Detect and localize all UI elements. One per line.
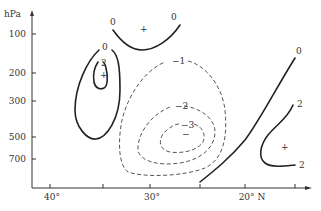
x-tick-label: 30° — [144, 192, 160, 202]
contour-left-positive: 0 2 + — [75, 42, 120, 139]
x-tick-label: 20° N — [239, 192, 266, 202]
contour-label: 2 — [299, 160, 305, 170]
contour-label: 0 — [102, 42, 108, 52]
plus-marker-icon: + — [281, 142, 289, 152]
contour-line — [200, 58, 295, 182]
contour-label: 2 — [101, 58, 107, 68]
contour-top-zero: 0 0 + — [110, 12, 180, 50]
plus-marker-icon: + — [140, 24, 148, 34]
y-axis: hPa 100 200 300 500 700 — [4, 9, 36, 188]
y-tick-label: 500 — [9, 132, 26, 142]
contour-right-positive: 2 2 + — [261, 99, 305, 170]
y-axis-unit-label: hPa — [4, 9, 21, 19]
contour-label: −2 — [175, 101, 188, 111]
y-axis-arrow-icon — [30, 10, 34, 16]
x-axis-arrow-icon — [305, 186, 312, 190]
plus-marker-icon: + — [100, 70, 108, 80]
contour-line — [261, 105, 295, 166]
y-tick-label: 200 — [9, 68, 26, 78]
contour-label: −1 — [172, 56, 185, 66]
contour-line-neg2 — [138, 106, 215, 164]
contour-label: 0 — [110, 17, 116, 27]
minus-marker-icon: − — [182, 129, 190, 139]
y-tick-label: 700 — [9, 154, 26, 164]
contour-negative-cluster: −1 −2 −3 − — [120, 56, 226, 175]
contour-label: 2 — [297, 99, 303, 109]
pressure-latitude-cross-section: hPa 100 200 300 500 700 40° 30° 20° N — [0, 0, 321, 211]
x-tick-label: 40° — [44, 192, 60, 202]
y-tick-label: 300 — [9, 96, 26, 106]
y-tick-label: 100 — [9, 29, 26, 39]
contour-label: 0 — [171, 12, 177, 22]
contour-label: 0 — [296, 46, 302, 56]
x-axis: 40° 30° 20° N — [32, 184, 312, 202]
